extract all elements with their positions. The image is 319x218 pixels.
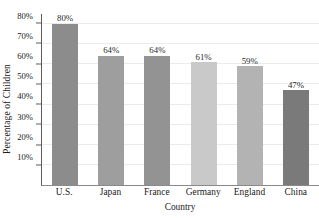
bar-value-label: 64% — [149, 46, 165, 55]
y-tick-label: 20% — [17, 133, 33, 142]
y-tick-label: 30% — [17, 112, 33, 121]
x-tick-label: China — [273, 188, 319, 197]
y-axis-tick-labels: 10%20%30%40%50%60%70%80% — [12, 14, 36, 186]
x-tick-label: Germany — [180, 188, 226, 197]
bar[interactable]: 61% — [191, 62, 217, 185]
y-tick-label: 50% — [17, 72, 33, 81]
y-tick-label: 60% — [17, 52, 33, 61]
x-tick-label: France — [134, 188, 180, 197]
x-axis-title: Country — [41, 203, 319, 212]
bar-slot: 61% — [181, 14, 227, 185]
bar[interactable]: 47% — [283, 90, 309, 185]
bar-value-label: 80% — [57, 14, 73, 23]
bar-value-label: 59% — [242, 57, 258, 66]
bar-slot: 64% — [88, 14, 134, 185]
bar[interactable]: 59% — [237, 66, 263, 185]
bar-value-label: 61% — [196, 53, 212, 62]
x-tick-label: Japan — [87, 188, 133, 197]
x-tick-label: U.S. — [41, 188, 87, 197]
bar[interactable]: 64% — [144, 56, 170, 185]
y-tick-label: 80% — [17, 11, 33, 20]
y-tick-label: 70% — [17, 31, 33, 40]
bar-chart-figure: Percentage of Children 10%20%30%40%50%60… — [0, 0, 319, 218]
bar-series: 80%64%64%61%59%47% — [42, 14, 319, 185]
y-tick-label: 40% — [17, 92, 33, 101]
bar-value-label: 64% — [103, 46, 119, 55]
y-tick-label: 10% — [17, 153, 33, 162]
x-axis-tick-labels: U.S.JapanFranceGermanyEnglandChina — [41, 188, 319, 202]
bar[interactable]: 64% — [98, 56, 124, 185]
bar-value-label: 47% — [288, 81, 304, 90]
bar-slot: 64% — [134, 14, 180, 185]
plot-area: 80%64%64%61%59%47% — [41, 14, 319, 186]
bar-slot: 47% — [273, 14, 319, 185]
bar-slot: 80% — [42, 14, 88, 185]
bar[interactable]: 80% — [52, 24, 78, 185]
bar-slot: 59% — [227, 14, 273, 185]
x-tick-label: England — [226, 188, 272, 197]
